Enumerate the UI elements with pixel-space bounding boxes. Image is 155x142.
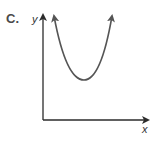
graph-diagram: y x: [0, 0, 155, 142]
parabola-left-arm: [54, 16, 84, 80]
y-axis-label: y: [31, 13, 39, 25]
parabola-right-arm: [84, 16, 112, 80]
x-axis-label: x: [141, 123, 148, 135]
